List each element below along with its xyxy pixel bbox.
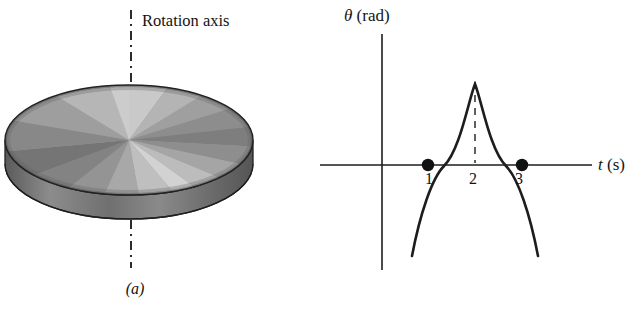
y-axis-unit: (rad) — [357, 6, 390, 25]
x-tick-label-3: 3 — [509, 170, 529, 188]
panel-a-rotating-disk: Rotation axis — [0, 0, 320, 309]
figure-root: Rotation axis — [0, 0, 642, 309]
y-axis-label: θ (rad) — [344, 6, 390, 26]
disk-svg — [3, 78, 259, 228]
x-tick-label-1: 1 — [419, 170, 439, 188]
x-axis-label: t (s) — [598, 155, 625, 175]
theta-vs-time-chart — [320, 0, 642, 309]
x-axis-unit: (s) — [607, 155, 625, 174]
x-tick-label-2: 2 — [463, 170, 483, 188]
panel-a-caption: (a) — [105, 280, 165, 298]
disk-illustration — [3, 78, 259, 228]
rotation-axis-label: Rotation axis — [142, 12, 230, 30]
panel-b-theta-graph: (b) — [320, 0, 642, 309]
